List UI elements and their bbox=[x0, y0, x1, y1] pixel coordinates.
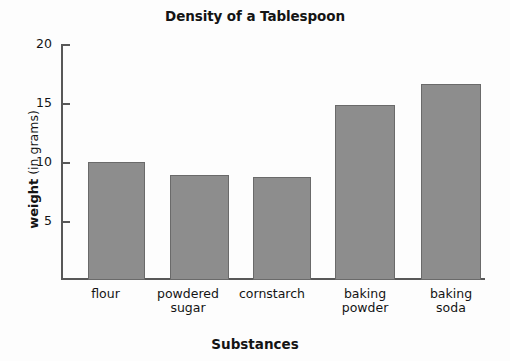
chart-title: Density of a Tablespoon bbox=[0, 8, 510, 24]
y-tick-label-20: 20 bbox=[6, 38, 52, 51]
plot-area bbox=[61, 44, 485, 280]
y-tick-label-10: 10 bbox=[6, 156, 52, 169]
x-tick-label-baking-powder-line2: powder bbox=[317, 301, 413, 315]
y-tick-label-5: 5 bbox=[6, 215, 52, 228]
y-tick-mark-5 bbox=[63, 221, 70, 223]
x-tick-label-cornstarch: cornstarch bbox=[224, 287, 320, 301]
y-tick-mark-10 bbox=[63, 162, 70, 164]
x-tick-label-flour: flour bbox=[58, 287, 153, 301]
bar-cornstarch[interactable] bbox=[253, 177, 311, 280]
x-tick-label-baking-powder-line1: baking bbox=[317, 287, 413, 301]
bar-baking-soda[interactable] bbox=[421, 84, 481, 280]
bar-flour[interactable] bbox=[88, 162, 145, 280]
y-tick-label-15: 15 bbox=[6, 97, 52, 110]
bar-baking-powder[interactable] bbox=[335, 105, 395, 280]
x-tick-label-powdered-sugar-line1: powdered bbox=[140, 287, 236, 301]
x-tick-label-baking-soda-line1: baking bbox=[403, 287, 499, 301]
bar-powdered-sugar[interactable] bbox=[170, 175, 229, 280]
x-tick-label-baking-powder: baking powder bbox=[317, 287, 413, 315]
x-tick-label-baking-soda-line2: soda bbox=[403, 301, 499, 315]
x-tick-label-baking-soda: baking soda bbox=[403, 287, 499, 315]
x-tick-label-cornstarch-line1: cornstarch bbox=[224, 287, 320, 301]
y-tick-mark-20 bbox=[63, 44, 70, 46]
y-tick-mark-15 bbox=[63, 103, 70, 105]
bar-chart-figure: Density of a Tablespoon weight (in grams… bbox=[0, 0, 510, 361]
x-axis-title: Substances bbox=[0, 336, 510, 352]
x-tick-label-powdered-sugar: powdered sugar bbox=[140, 287, 236, 315]
x-tick-label-powdered-sugar-line2: sugar bbox=[140, 301, 236, 315]
x-tick-label-flour-line1: flour bbox=[58, 287, 153, 301]
